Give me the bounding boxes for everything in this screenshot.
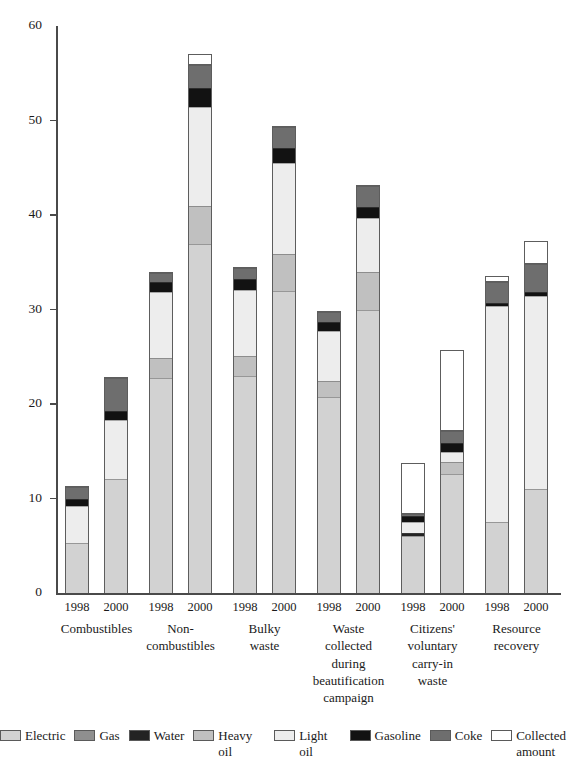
bar-segment-electric xyxy=(105,479,127,593)
stacked-bar-chart: 6050403020100 19982000Combustibles199820… xyxy=(0,0,575,710)
bar-stack xyxy=(524,263,548,593)
bar-group xyxy=(149,26,233,593)
bar-segment-gasoline xyxy=(441,443,463,452)
bar-segment-light-oil xyxy=(441,452,463,461)
bar-segment-coke xyxy=(318,312,340,321)
bar-stack xyxy=(356,185,380,593)
bar-group xyxy=(401,26,485,593)
bar-stack xyxy=(317,311,341,593)
y-tick-label: 10 xyxy=(2,491,42,505)
bar-segment-light-oil xyxy=(189,107,211,206)
bar-segment-light-oil xyxy=(234,290,256,356)
legend-item[interactable]: Collected amount xyxy=(491,728,566,760)
bar-group xyxy=(65,26,149,593)
bar-stack xyxy=(485,281,509,593)
legend-swatch-icon xyxy=(129,730,150,741)
bar-segment-coke xyxy=(525,264,547,291)
legend-swatch-icon xyxy=(491,730,512,741)
legend-item[interactable]: Electric xyxy=(0,728,65,744)
bar-stack xyxy=(272,126,296,593)
bar-stack xyxy=(104,377,128,593)
bar-segment-heavy-oil xyxy=(273,254,295,292)
y-tick-label: 50 xyxy=(2,113,42,127)
bar-segment-electric xyxy=(150,378,172,593)
bar-segment-heavy-oil xyxy=(189,206,211,244)
bar-segment-coke xyxy=(234,268,256,279)
y-tick-mark xyxy=(50,498,57,499)
bar-group xyxy=(233,26,317,593)
bar-segment-coke xyxy=(273,127,295,148)
y-tick-mark xyxy=(50,403,57,404)
bar-segment-electric xyxy=(318,397,340,593)
x-axis-group-label: Resource recovery xyxy=(462,620,572,655)
legend-item[interactable]: Light oil xyxy=(274,728,340,760)
bar-segment-heavy-oil xyxy=(150,358,172,378)
legend-label: Gasoline xyxy=(375,728,421,744)
bar-segment-gasoline xyxy=(189,88,211,107)
bar-stack xyxy=(440,430,464,593)
bar-segment-coke xyxy=(105,378,127,412)
bar-stack xyxy=(188,64,212,593)
bar-segment-heavy-oil xyxy=(318,381,340,397)
bar-segment-heavy-oil xyxy=(441,462,463,474)
legend-item[interactable]: Coke xyxy=(430,728,482,744)
legend-label: Coke xyxy=(455,728,482,744)
bar-segment-gasoline xyxy=(273,148,295,163)
legend-swatch-icon xyxy=(274,730,295,741)
bar-segment-light-oil xyxy=(525,296,547,489)
bar-segment-coke xyxy=(189,65,211,89)
bar-segment-light-oil xyxy=(150,292,172,358)
bar-stack xyxy=(65,486,89,593)
bar-segment-light-oil xyxy=(357,218,379,273)
legend-label: Light oil xyxy=(299,728,340,760)
y-tick-label: 30 xyxy=(2,302,42,316)
bar-segment-coke xyxy=(441,431,463,443)
bar-group xyxy=(485,26,569,593)
bar-segment-gasoline xyxy=(105,411,127,419)
legend-label: Electric xyxy=(25,728,65,744)
legend-label: Water xyxy=(154,728,185,744)
x-tick-label-year: 2000 xyxy=(506,600,566,615)
legend-swatch-icon xyxy=(430,730,451,741)
bar-segment-electric xyxy=(273,291,295,593)
bar-stack xyxy=(149,272,173,593)
bar-segment-electric xyxy=(441,474,463,593)
bar-stack xyxy=(401,513,425,593)
plot-area xyxy=(57,26,561,593)
bar-stack xyxy=(233,267,257,593)
y-tick-label: 40 xyxy=(2,207,42,221)
legend-item[interactable]: Water xyxy=(129,728,185,744)
bar-segment-light-oil xyxy=(66,506,88,543)
legend-item[interactable]: Gasoline xyxy=(350,728,421,744)
y-tick-mark xyxy=(50,214,57,215)
legend-item[interactable]: Gas xyxy=(74,728,119,744)
bar-segment-light-oil xyxy=(105,420,127,479)
bar-segment-electric xyxy=(234,376,256,593)
bar-segment-light-oil xyxy=(318,331,340,381)
y-tick-mark xyxy=(50,120,57,121)
bar-segment-light-oil xyxy=(402,522,424,533)
legend-item[interactable]: Heavy oil xyxy=(193,728,265,760)
bar-segment-heavy-oil xyxy=(234,356,256,377)
chart-legend: ElectricGasWaterHeavy oilLight oilGasoli… xyxy=(0,712,575,767)
bar-segment-coke xyxy=(486,282,508,303)
bar-segment-electric xyxy=(486,522,508,593)
bar-segment-heavy-oil xyxy=(357,272,379,310)
bar-segment-gasoline xyxy=(357,207,379,217)
bar-segment-coke xyxy=(357,186,379,208)
bar-segment-light-oil xyxy=(486,306,508,523)
bar-group xyxy=(317,26,401,593)
legend-swatch-icon xyxy=(350,730,371,741)
bar-segment-electric xyxy=(525,489,547,593)
y-tick-label: 60 xyxy=(2,18,42,32)
x-axis-line xyxy=(56,593,561,595)
y-tick-label: 20 xyxy=(2,396,42,410)
bar-segment-gasoline xyxy=(234,279,256,289)
bar-segment-gasoline xyxy=(318,322,340,331)
bar-segment-electric xyxy=(357,310,379,593)
legend-label: Gas xyxy=(99,728,119,744)
bar-segment-light-oil xyxy=(273,163,295,254)
bar-segment-gasoline xyxy=(150,282,172,292)
bar-segment-electric xyxy=(189,244,211,593)
legend-swatch-icon xyxy=(193,730,214,741)
